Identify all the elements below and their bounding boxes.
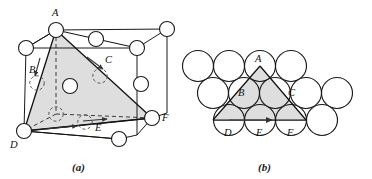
face-atom-top	[89, 32, 104, 47]
sphere-r1-c3	[291, 78, 322, 109]
atom-bottom-front-right	[112, 132, 127, 147]
sphere-r1-c0	[198, 78, 229, 109]
atom-F	[145, 111, 160, 126]
panel-b-label-C: C	[288, 87, 296, 98]
panel-a-label-C: C	[105, 54, 113, 65]
sphere-r0-c0	[183, 51, 214, 82]
sphere-r0-c1	[214, 51, 245, 82]
atom-top-back-right	[130, 41, 145, 56]
panel-b-label-E: E	[255, 127, 263, 138]
sphere-row-top	[183, 51, 307, 82]
panel-b-close-packed-plane: A B C D E F (b)	[183, 51, 353, 175]
panel-b-label-F: F	[286, 127, 294, 138]
panel-b-label-D: D	[223, 127, 232, 138]
atom-top-front-right	[160, 22, 175, 37]
sphere-r2-c3	[307, 105, 338, 136]
panel-a-label-B: B	[29, 64, 36, 75]
panel-b-label-A: A	[254, 53, 262, 64]
atom-top-back-left	[19, 41, 34, 56]
sphere-r0-c3	[276, 51, 307, 82]
atom-D	[17, 124, 32, 139]
panel-b-label-B: B	[238, 87, 245, 98]
sphere-r1-c2	[260, 78, 291, 109]
panel-b-caption: (b)	[258, 161, 271, 174]
face-atom-right	[134, 77, 149, 92]
face-atom-front	[63, 79, 78, 94]
crystal-structure-figure: A B C D E F (a)	[0, 0, 372, 179]
panel-a-label-F: F	[161, 112, 169, 123]
panel-a-label-A: A	[51, 7, 59, 18]
figure-canvas: A B C D E F (a)	[0, 0, 372, 179]
sphere-row-middle	[198, 78, 353, 109]
panel-a-unit-cell: A B C D E F (a)	[9, 7, 175, 174]
panel-a-label-E: E	[94, 122, 102, 133]
sphere-r1-c4	[322, 78, 353, 109]
panel-a-label-D: D	[9, 139, 18, 150]
panel-a-caption: (a)	[72, 161, 85, 174]
atom-A	[49, 23, 64, 38]
